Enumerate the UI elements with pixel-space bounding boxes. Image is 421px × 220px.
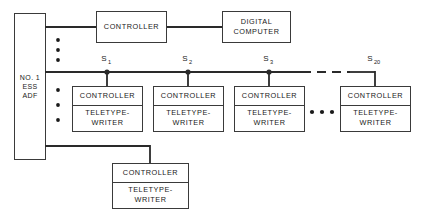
top-controller-label: CONTROLLER (104, 22, 159, 31)
station-label-s1: S (101, 54, 106, 63)
station-subscript-s2: 2 (189, 59, 192, 65)
station-subscript-s20: 20 (374, 59, 380, 65)
ess-adf-label-line2: ESS (22, 83, 37, 90)
station-label-s20: S (367, 54, 372, 63)
controller-label-s2: CONTROLLER (161, 91, 216, 100)
teletypewriter-label-s3-line1: TELETYPE- (247, 108, 292, 117)
teletypewriter-label-s2-line1: TELETYPE- (166, 108, 211, 117)
ess-adf-label-line3: ADF (22, 92, 37, 99)
teletypewriter-label-s3-line2: WRITER (253, 118, 285, 127)
teletypewriter-label-bottom-line2: WRITER (134, 195, 166, 204)
vertical-ellipsis-dot (56, 38, 60, 42)
teletypewriter-label-s1-line1: TELETYPE- (85, 108, 130, 117)
horizontal-ellipsis-dot (320, 110, 324, 114)
controller-label-s20: CONTROLLER (348, 91, 403, 100)
station-label-s2: S (182, 54, 187, 63)
controller-label-bottom: CONTROLLER (123, 168, 178, 177)
horizontal-ellipsis-dot (330, 110, 334, 114)
vertical-ellipsis-dot (56, 58, 60, 62)
ess-adf-label-line1: NO. 1 (20, 74, 40, 81)
digital-computer-label-line2: COMPUTER (233, 27, 279, 36)
station-subscript-s3: 3 (270, 59, 273, 65)
vertical-ellipsis-dot (56, 118, 60, 122)
teletypewriter-label-s2-line2: WRITER (172, 118, 204, 127)
station-subscript-s1: 1 (108, 59, 111, 65)
digital-computer-label-line1: DIGITAL (241, 17, 273, 26)
horizontal-ellipsis-dot (310, 110, 314, 114)
vertical-ellipsis-dot (56, 88, 60, 92)
station-label-s3: S (263, 54, 268, 63)
diagram-canvas: NO. 1 ESS ADF CONTROLLER DIGITAL COMPUTE… (0, 0, 421, 220)
controller-label-s3: CONTROLLER (242, 91, 297, 100)
vertical-ellipsis-dot (56, 48, 60, 52)
controller-label-s1: CONTROLLER (80, 91, 135, 100)
diagram-svg: NO. 1 ESS ADF CONTROLLER DIGITAL COMPUTE… (0, 0, 421, 220)
bus-line-bottom (45, 146, 150, 163)
teletypewriter-label-s1-line2: WRITER (91, 118, 123, 127)
teletypewriter-label-s20-line1: TELETYPE- (353, 108, 398, 117)
teletypewriter-label-bottom-line1: TELETYPE- (128, 185, 173, 194)
vertical-ellipsis-dot (56, 103, 60, 107)
teletypewriter-label-s20-line2: WRITER (359, 118, 391, 127)
